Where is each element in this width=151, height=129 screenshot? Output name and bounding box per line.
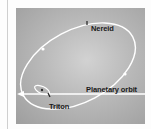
orbit-diagram-svg	[16, 8, 145, 124]
nereid-orbit-direction-markers	[41, 47, 126, 75]
diagram-frame: Nereid Planetary orbit Triton	[0, 0, 151, 129]
orbit-diagram-panel: Nereid Planetary orbit Triton	[16, 8, 145, 124]
label-planetary-orbit: Planetary orbit	[86, 86, 137, 94]
nereid-orbit	[16, 8, 145, 124]
label-triton: Triton	[49, 103, 69, 111]
label-nereid: Nereid	[91, 25, 114, 33]
page-margin-rule	[7, 0, 8, 129]
